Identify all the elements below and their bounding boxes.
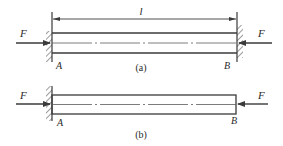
left-force-label: F bbox=[19, 89, 27, 101]
left-fixed-support bbox=[46, 12, 52, 62]
support-label-a: A bbox=[56, 117, 64, 128]
caption-b: (b) bbox=[135, 129, 147, 141]
support-label-b: B bbox=[231, 115, 237, 126]
figure-a: l F F A B (a) bbox=[16, 5, 272, 74]
support-label-b: B bbox=[224, 60, 230, 71]
right-fixed-support bbox=[237, 12, 243, 62]
beam-b bbox=[52, 95, 236, 114]
right-force-label: F bbox=[257, 27, 265, 39]
right-force-label: F bbox=[257, 89, 265, 101]
length-dimension: l bbox=[53, 5, 236, 19]
beam-a bbox=[52, 33, 237, 53]
support-label-a: A bbox=[55, 60, 63, 71]
left-force-label: F bbox=[19, 27, 27, 39]
figure-b: F F A B (b) bbox=[16, 86, 268, 141]
beam-diagram: l F F A B (a) bbox=[0, 0, 283, 146]
caption-a: (a) bbox=[135, 62, 146, 74]
length-label: l bbox=[139, 5, 142, 17]
